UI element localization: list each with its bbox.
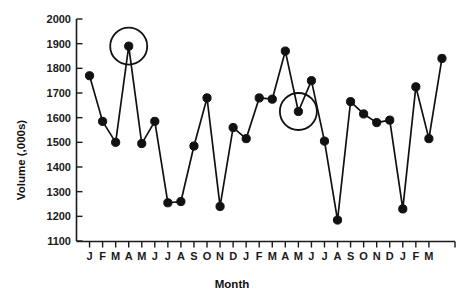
data-point-marker (360, 110, 368, 118)
x-tick-label: M (424, 250, 433, 262)
data-point-marker (255, 94, 263, 102)
x-tick-label: M (294, 250, 303, 262)
x-tick-label: O (359, 250, 368, 262)
x-tick-label: A (125, 250, 133, 262)
y-tick-label: 1300 (47, 186, 71, 198)
x-tick-label: M (137, 250, 146, 262)
x-tick-label: J (400, 250, 406, 262)
data-point-marker (346, 98, 354, 106)
x-tick-label: F (256, 250, 263, 262)
data-point-marker (399, 205, 407, 213)
x-tick-label: D (229, 250, 237, 262)
x-tick-label: N (216, 250, 224, 262)
x-tick-label: M (111, 250, 120, 262)
x-tick-label: J (165, 250, 171, 262)
x-tick-label: M (268, 250, 277, 262)
data-point-marker (203, 94, 211, 102)
data-point-marker (268, 95, 276, 103)
data-point-marker (307, 77, 315, 85)
line-chart-figure: 1100120013001400150016001700180019002000… (0, 0, 464, 307)
data-point-marker (425, 135, 433, 143)
x-tick-label: A (177, 250, 185, 262)
y-tick-label: 1200 (47, 210, 71, 222)
y-tick-label: 1400 (47, 161, 71, 173)
y-tick-label: 2000 (47, 13, 71, 25)
data-point-marker (333, 216, 341, 224)
y-tick-label: 1100 (47, 235, 71, 247)
y-tick-label: 1900 (47, 38, 71, 50)
data-point-marker (242, 135, 250, 143)
x-tick-label: F (412, 250, 419, 262)
volume-series-line (90, 46, 442, 220)
data-point-marker (229, 123, 237, 131)
y-tick-label: 1600 (47, 112, 71, 124)
y-axis-title: Volume (,000s) (15, 120, 27, 200)
x-axis-tick-labels: JFMAMJJASONDJFMAMJJASONDJFM (86, 250, 433, 262)
data-point-marker (320, 137, 328, 145)
x-tick-label: O (203, 250, 212, 262)
x-axis-tick-marks (90, 242, 455, 248)
y-tick-label: 1500 (47, 136, 71, 148)
y-tick-label: 1800 (47, 62, 71, 74)
chart-canvas: 1100120013001400150016001700180019002000… (0, 0, 464, 307)
data-point-marker (85, 72, 93, 80)
data-point-marker (190, 142, 198, 150)
y-axis-tick-marks (77, 19, 83, 241)
data-point-marker (164, 199, 172, 207)
x-axis-title: Month (215, 278, 249, 290)
y-tick-label: 1700 (47, 87, 71, 99)
data-point-marker (373, 119, 381, 127)
x-tick-label: F (99, 250, 106, 262)
outlier-annotations (110, 28, 317, 130)
data-point-marker (125, 42, 133, 50)
data-point-marker (386, 116, 394, 124)
x-tick-label: S (347, 250, 354, 262)
data-point-marker (412, 83, 420, 91)
data-point-marker (281, 47, 289, 55)
data-point-marker (138, 139, 146, 147)
x-tick-label: J (321, 250, 327, 262)
data-point-marker (151, 117, 159, 125)
x-tick-label: J (308, 250, 314, 262)
x-tick-label: D (386, 250, 394, 262)
data-point-marker (294, 107, 302, 115)
x-tick-label: A (281, 250, 289, 262)
data-point-marker (99, 117, 107, 125)
data-point-marker (177, 197, 185, 205)
x-tick-label: J (86, 250, 92, 262)
data-point-marker (438, 54, 446, 62)
x-tick-label: A (334, 250, 342, 262)
y-axis-tick-labels: 1100120013001400150016001700180019002000 (47, 13, 71, 247)
x-tick-label: N (373, 250, 381, 262)
x-tick-label: J (243, 250, 249, 262)
data-point-marker (216, 202, 224, 210)
data-point-marker (112, 138, 120, 146)
x-tick-label: J (152, 250, 158, 262)
x-tick-label: S (190, 250, 197, 262)
